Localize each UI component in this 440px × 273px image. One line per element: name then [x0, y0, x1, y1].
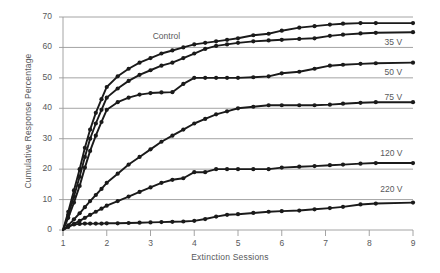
data-point [267, 167, 271, 171]
data-point [203, 170, 207, 174]
gridlines [59, 17, 413, 230]
data-point [341, 102, 345, 106]
data-point [267, 38, 271, 42]
data-point [341, 162, 345, 166]
data-point [374, 31, 378, 35]
data-point [267, 210, 271, 214]
x-tick-label: 8 [362, 238, 376, 248]
data-point [358, 62, 362, 66]
data-point [225, 76, 229, 80]
plot-canvas [0, 0, 440, 273]
data-point [66, 224, 70, 228]
data-point [225, 109, 229, 113]
data-point [251, 33, 255, 37]
data-point [203, 47, 207, 51]
data-point [137, 190, 141, 194]
data-point [251, 75, 255, 79]
data-point [83, 155, 87, 159]
data-point [105, 96, 109, 100]
data-point [181, 82, 185, 86]
x-tick-label: 9 [406, 238, 420, 248]
data-point [192, 121, 196, 125]
data-point [312, 67, 316, 71]
y-tick-label: 0 [30, 224, 52, 234]
data-point [88, 127, 92, 131]
data-point [88, 199, 92, 203]
data-point [72, 217, 76, 221]
data-point [251, 39, 255, 43]
data-point [267, 103, 271, 107]
data-point [411, 61, 415, 65]
data-point [214, 215, 218, 219]
data-point [214, 44, 218, 48]
data-point [88, 149, 92, 153]
data-point [358, 162, 362, 166]
data-point [170, 90, 174, 94]
data-point [280, 209, 284, 213]
data-point [137, 92, 141, 96]
data-point [411, 21, 415, 25]
data-point [170, 220, 174, 224]
data-point [192, 219, 196, 223]
data-point [251, 167, 255, 171]
data-point [214, 167, 218, 171]
data-point [267, 74, 271, 78]
data-point [159, 140, 163, 144]
data-point [411, 30, 415, 34]
data-point [236, 41, 240, 45]
data-point [78, 222, 82, 226]
x-tick-label: 4 [187, 238, 201, 248]
data-point [170, 48, 174, 52]
data-point [214, 39, 218, 43]
data-point [374, 61, 378, 65]
data-point [78, 184, 82, 188]
y-tick-label: 30 [30, 133, 52, 143]
data-point [99, 207, 103, 211]
series-line [63, 102, 413, 230]
data-point [358, 21, 362, 25]
data-point [170, 134, 174, 138]
series-line [63, 203, 413, 230]
data-point [137, 155, 141, 159]
data-point [251, 105, 255, 109]
data-point [127, 162, 131, 166]
data-point [358, 101, 362, 105]
data-point [411, 161, 415, 165]
data-point [127, 67, 131, 71]
data-point [148, 56, 152, 60]
data-point [203, 217, 207, 221]
data-point [328, 34, 332, 38]
y-tick-label: 70 [30, 11, 52, 21]
data-point [105, 204, 109, 208]
data-point [358, 31, 362, 35]
data-point [159, 51, 163, 55]
data-point [105, 108, 109, 112]
data-point [170, 61, 174, 65]
data-point [341, 205, 345, 209]
data-point [251, 211, 255, 215]
data-point [94, 222, 98, 226]
data-point [374, 201, 378, 205]
data-point [225, 213, 229, 217]
data-point [192, 51, 196, 55]
data-point [341, 22, 345, 26]
data-point [297, 165, 301, 169]
data-point [137, 73, 141, 77]
data-point [236, 212, 240, 216]
series-control [63, 21, 415, 230]
data-point [83, 205, 87, 209]
data-point [192, 170, 196, 174]
data-point [225, 42, 229, 46]
data-point [137, 221, 141, 225]
x-tick-label: 6 [275, 238, 289, 248]
data-point [127, 79, 131, 83]
data-point [411, 201, 415, 205]
data-point [88, 137, 92, 141]
series-line [63, 23, 413, 230]
data-point [83, 222, 87, 226]
data-point [225, 38, 229, 42]
y-tick-label: 10 [30, 194, 52, 204]
data-point [116, 86, 120, 90]
series-label-50-v: 50 V [385, 67, 403, 77]
data-point [78, 211, 82, 215]
